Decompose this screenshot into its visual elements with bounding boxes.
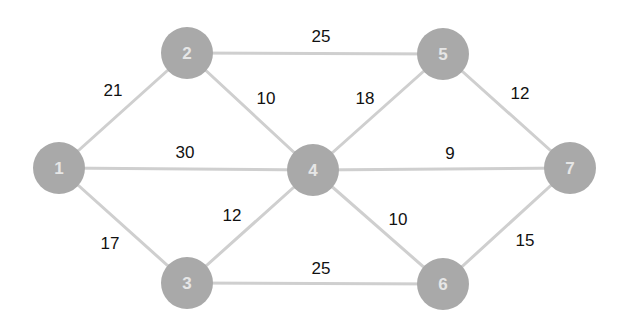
edge-weight-4-5: 18 <box>356 89 375 108</box>
edge-weight-3-4: 12 <box>223 206 242 225</box>
node-6: 6 <box>417 258 469 310</box>
edge-4-7 <box>313 168 570 170</box>
node-2: 2 <box>161 27 213 79</box>
edge-weight-1-2: 21 <box>104 81 123 100</box>
graph-diagram: 21301725101225189101215 1234567 <box>0 0 625 328</box>
edge-1-4 <box>59 168 313 170</box>
node-label: 7 <box>565 159 574 178</box>
node-label: 2 <box>182 44 191 63</box>
edge-weight-4-6: 10 <box>389 210 408 229</box>
edge-weight-5-7: 12 <box>511 84 530 103</box>
edge-weight-2-5: 25 <box>312 27 331 46</box>
edge-weight-6-7: 15 <box>516 231 535 250</box>
node-4: 4 <box>287 144 339 196</box>
edge-weight-1-3: 17 <box>101 234 120 253</box>
node-label: 5 <box>438 45 447 64</box>
node-label: 3 <box>182 274 191 293</box>
node-7: 7 <box>544 142 596 194</box>
edge-weight-4-7: 9 <box>445 144 454 163</box>
node-5: 5 <box>417 28 469 80</box>
node-label: 1 <box>54 159 63 178</box>
node-label: 6 <box>438 275 447 294</box>
edge-2-5 <box>187 53 443 54</box>
edge-weight-3-6: 25 <box>312 259 331 278</box>
edge-weight-2-4: 10 <box>257 89 276 108</box>
node-label: 4 <box>308 161 318 180</box>
edge-weight-1-4: 30 <box>176 143 195 162</box>
node-3: 3 <box>161 257 213 309</box>
node-1: 1 <box>33 142 85 194</box>
edge-4-5 <box>313 54 443 170</box>
edge-3-6 <box>187 283 443 284</box>
